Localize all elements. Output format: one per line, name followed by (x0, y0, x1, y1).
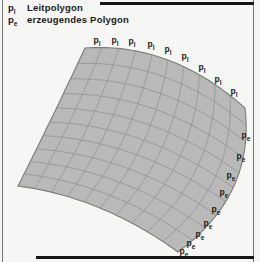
point-label-erzeugendes: pe (204, 219, 213, 228)
point-label-erzeugendes: pe (237, 152, 246, 161)
point-label-erzeugendes: pe (220, 188, 229, 197)
point-label-leitpolygon: pl (214, 75, 221, 84)
frame-bottom-rule (36, 256, 254, 259)
point-label-leitpolygon: pl (93, 36, 100, 45)
point-label-erzeugendes: pe (242, 131, 251, 140)
frame-left-rule (2, 0, 3, 262)
point-label-leitpolygon: pl (111, 36, 118, 45)
point-label-leitpolygon: pl (147, 40, 154, 49)
point-label-leitpolygon: pl (198, 63, 205, 71)
point-label-leitpolygon: pl (164, 45, 171, 54)
point-label-erzeugendes: pe (196, 230, 205, 239)
point-label-erzeugendes: pe (180, 247, 189, 256)
frame-top-rule (100, 2, 254, 5)
point-label-erzeugendes: pe (227, 171, 236, 180)
figure: pl Leitpolygon pe erzeugendes Polygon pl… (0, 0, 260, 262)
point-label-erzeugendes: pe (212, 205, 221, 214)
point-label-leitpolygon: pl (230, 87, 237, 96)
frame-right-rule (253, 0, 254, 262)
point-label-leitpolygon: pl (181, 52, 188, 61)
point-label-leitpolygon: pl (128, 37, 135, 46)
